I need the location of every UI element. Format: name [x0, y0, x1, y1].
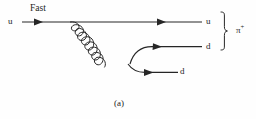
label-pion-meson: π+: [236, 26, 244, 35]
figure-caption: (a): [114, 99, 124, 108]
d-quark-lower-arrowhead: [144, 69, 154, 76]
label-incoming-u-quark: u: [8, 17, 13, 26]
diagram-canvas: [0, 0, 256, 119]
label-outgoing-d-quark-upper: d: [206, 42, 211, 51]
label-fast-annotation: Fast: [30, 4, 46, 14]
d-quark-upper-line: [130, 47, 202, 64]
label-outgoing-u-quark: u: [206, 17, 211, 26]
u-quark-arrowhead-right: [157, 19, 166, 26]
pion-grouping-brace: [221, 12, 227, 50]
d-quark-lower-line: [128, 64, 178, 72]
label-outgoing-d-quark-lower: d: [180, 67, 185, 76]
d-quark-upper-arrowhead: [153, 43, 162, 50]
pion-charge-superscript: +: [241, 23, 245, 30]
u-quark-arrowhead-left: [34, 19, 43, 26]
gluon-propagator: [70, 22, 105, 68]
feynman-diagram-figure: u Fast u d d π+ (a): [0, 0, 256, 119]
